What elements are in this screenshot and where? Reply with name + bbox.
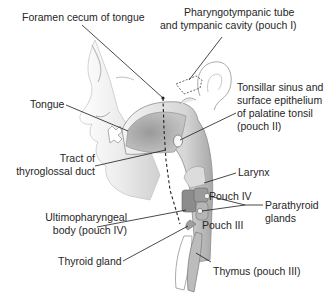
label-tonsillar-line2: surface epithelium (237, 94, 322, 107)
leader-pharyngotympanic (189, 37, 222, 80)
thymus-shape (187, 232, 202, 292)
label-pharyngotympanic-line2: and tympanic cavity (pouch I) (160, 19, 297, 32)
label-foramen-cecum: Foramen cecum of tongue (22, 11, 145, 24)
label-pouch-iv: Pouch IV (209, 190, 252, 203)
ear-outline (198, 62, 232, 110)
label-parathyroid-line2: glands (265, 212, 296, 225)
label-pharyngotympanic-line1: Pharyngotympanic tube (184, 6, 294, 19)
label-parathyroid-line1: Parathyroid (265, 199, 319, 212)
label-thyroglossal-line1: Tract of (40, 152, 95, 165)
label-pouch-iii: Pouch III (202, 219, 243, 232)
ear-inner (207, 74, 221, 92)
label-thyroid: Thyroid gland (58, 255, 122, 268)
label-tongue: Tongue (30, 98, 64, 111)
palatine-tonsil (174, 135, 183, 147)
label-tonsillar-line4: (pouch II) (237, 120, 281, 133)
anatomy-illustration (0, 0, 334, 297)
label-tonsillar-line3: of palatine tonsil (237, 107, 313, 120)
label-ultimopharyngeal-line2: body (pouch IV) (20, 224, 127, 237)
parathyroid-lower (197, 208, 202, 213)
label-larynx: Larynx (238, 166, 270, 179)
label-ultimopharyngeal-line1: Ultimopharyngeal (20, 211, 127, 224)
eye-line (116, 77, 134, 80)
soft-palate (180, 98, 196, 104)
label-thymus: Thymus (pouch III) (213, 265, 301, 278)
label-tonsillar-line1: Tonsillar sinus and (237, 81, 323, 94)
label-thyroglossal-line2: thyroglossal duct (0, 165, 95, 178)
